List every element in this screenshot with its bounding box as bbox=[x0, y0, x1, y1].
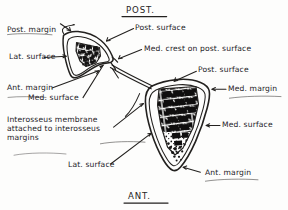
note-interosseus-membrane: Interosseus membrane attached to interos… bbox=[7, 116, 127, 143]
label-post-surface-upper: Post. surface bbox=[135, 24, 186, 33]
label-med-surface-lower: Med. surface bbox=[222, 121, 273, 130]
label-med-margin: Med. margin bbox=[228, 85, 277, 94]
label-med-surface-upper: Med. surface bbox=[28, 94, 79, 103]
label-ant-margin-lower: Ant. margin bbox=[205, 169, 251, 178]
note-interosseus-membrane-line-3: margins bbox=[7, 134, 127, 143]
orientation-header-ant: ANT. bbox=[128, 191, 151, 201]
label-lat-surface-lower: Lat. surface bbox=[68, 161, 115, 170]
orientation-header-post: POST. bbox=[126, 5, 155, 15]
label-lat-surface-upper: Lat. surface bbox=[9, 53, 56, 62]
diagram-canvas: POST. ANT. Post. margin Post. surface Me… bbox=[0, 0, 288, 210]
label-post-margin: Post. margin bbox=[7, 26, 56, 35]
label-med-crest-on-post-surface: Med. crest on post. surface bbox=[144, 45, 251, 54]
label-ant-margin-upper: Ant. margin bbox=[7, 84, 53, 93]
label-post-surface-lower: Post. surface bbox=[198, 66, 249, 75]
